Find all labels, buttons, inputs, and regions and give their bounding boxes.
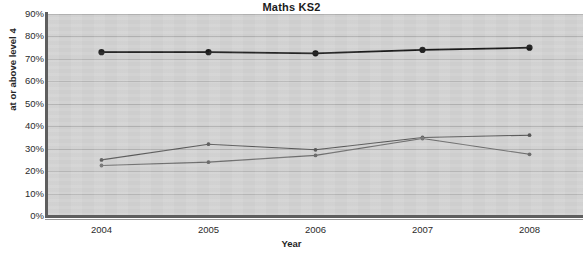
x-tick-label: 2008 [500, 224, 560, 236]
chart-title: Maths KS2 [0, 1, 583, 14]
y-tick-label: 20% [10, 166, 44, 176]
data-point-marker [314, 148, 318, 152]
data-point-marker [526, 45, 532, 51]
series-2-group [100, 133, 532, 161]
series-3-group [100, 137, 532, 168]
x-tick-label: 2004 [72, 224, 132, 236]
data-point-marker [528, 152, 532, 156]
x-tick-label: 2005 [179, 224, 239, 236]
series-1-group [98, 45, 532, 57]
data-point-marker [98, 49, 104, 55]
y-tick-label: 50% [10, 99, 44, 109]
plot-area [48, 14, 583, 216]
y-tick-label: 30% [10, 144, 44, 154]
y-tick-label: 60% [10, 76, 44, 86]
data-point-marker [314, 154, 318, 158]
x-tick-label: 2007 [393, 224, 453, 236]
x-axis-title: Year [0, 238, 583, 250]
y-tick-label: 70% [10, 54, 44, 64]
y-tick-label: 80% [10, 31, 44, 41]
x-axis-baseline-shadow [45, 219, 583, 220]
y-axis-tick-labels: 0%10%20%30%40%50%60%70%80%90% [10, 14, 44, 216]
data-point-marker [100, 158, 104, 162]
data-point-marker [528, 133, 532, 137]
y-tick-label: 0% [10, 211, 44, 221]
x-tick-label: 2006 [286, 224, 346, 236]
y-tick-label: 90% [10, 9, 44, 19]
data-point-marker [419, 47, 425, 53]
data-point-marker [312, 50, 318, 56]
x-axis-line [45, 215, 583, 218]
data-point-marker [205, 49, 211, 55]
chart-figure: Maths KS2 at or above level 4 0%10%20%30… [0, 0, 583, 255]
data-point-marker [100, 164, 104, 168]
y-tick-label: 40% [10, 121, 44, 131]
series-3-line [102, 139, 530, 166]
data-point-marker [207, 160, 211, 164]
data-point-marker [207, 142, 211, 146]
y-axis-line [45, 12, 48, 218]
x-axis-tick-labels: 20042005200620072008 [48, 224, 583, 238]
plot-series-layer [48, 14, 583, 216]
data-point-marker [421, 137, 425, 141]
y-tick-label: 10% [10, 189, 44, 199]
